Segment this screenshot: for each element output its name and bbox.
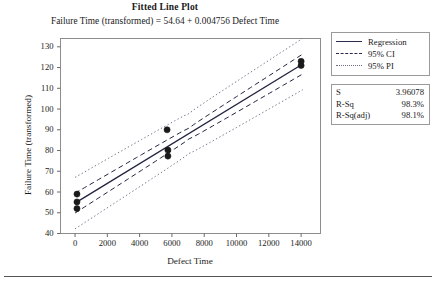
legend-label-ci: 95% CI [368, 49, 395, 59]
legend-label-regression: Regression [368, 37, 407, 47]
stats-key-rsq-adj: R-Sq(adj) [336, 110, 370, 122]
stats-value-s: 3.96078 [396, 87, 424, 99]
footer-divider [4, 276, 432, 277]
x-tick-label: 14000 [279, 239, 323, 248]
y-tick-label: 100 [24, 105, 54, 114]
y-tick-label: 70 [24, 167, 54, 176]
stats-row-rsq: R-Sq 98.3% [332, 99, 429, 111]
legend-line-dotted-icon [336, 61, 362, 71]
legend-label-pi: 95% PI [368, 61, 394, 71]
stats-row-s: S 3.96078 [332, 87, 429, 99]
y-tick-label: 80 [24, 146, 54, 155]
y-tick-label: 130 [24, 42, 54, 51]
legend-line-dashed-icon [336, 49, 362, 59]
fitted-line-plot-figure: Fitted Line Plot Failure Time (transform… [0, 0, 436, 284]
y-tick-label: 110 [24, 84, 54, 93]
stats-row-rsq-adj: R-Sq(adj) 98.1% [332, 110, 429, 122]
stats-key-rsq: R-Sq [336, 99, 354, 111]
legend-line-solid-icon [336, 37, 362, 47]
legend-item-regression: Regression [332, 36, 429, 48]
stats-value-rsq: 98.3% [402, 99, 424, 111]
chart-legend: Regression 95% CI 95% PI [331, 32, 430, 76]
stats-key-s: S [336, 87, 341, 99]
y-tick-label: 50 [24, 208, 54, 217]
legend-item-pi: 95% PI [332, 60, 429, 72]
regression-statistics-box: S 3.96078 R-Sq 98.3% R-Sq(adj) 98.1% [331, 84, 430, 125]
y-tick-label: 60 [24, 188, 54, 197]
y-tick-label: 120 [24, 63, 54, 72]
y-tick-label: 90 [24, 125, 54, 134]
x-axis-label: Defect Time [60, 256, 320, 266]
y-tick-label: 40 [24, 229, 54, 238]
legend-item-ci: 95% CI [332, 48, 429, 60]
stats-value-rsq-adj: 98.1% [402, 110, 424, 122]
